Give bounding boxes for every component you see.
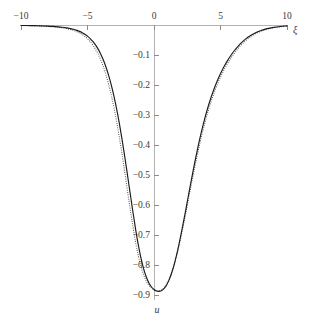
y-axis-ticks: −0.1−0.2−0.3−0.4−0.5−0.6−0.7−0.8−0.9: [133, 50, 159, 300]
x-tick-label: −10: [14, 11, 29, 21]
y-tick-label: −0.3: [133, 110, 150, 120]
y-tick-label: −0.4: [133, 140, 150, 150]
y-tick-label: −0.1: [133, 50, 150, 60]
chart-container: −10−50510 −0.1−0.2−0.3−0.4−0.5−0.6−0.7−0…: [0, 0, 309, 324]
plot-svg: −10−50510 −0.1−0.2−0.3−0.4−0.5−0.6−0.7−0…: [0, 0, 309, 324]
x-axis-label: ξ: [293, 24, 298, 36]
y-axis-label: u: [155, 304, 160, 315]
y-tick-label: −0.2: [133, 80, 150, 90]
axes-group: [21, 25, 287, 300]
y-tick-label: −0.9: [133, 290, 150, 300]
x-tick-label: 10: [282, 11, 292, 21]
x-tick-label: 5: [218, 11, 223, 21]
y-tick-label: −0.5: [133, 170, 150, 180]
x-tick-label: 0: [152, 11, 157, 21]
x-tick-label: −5: [82, 11, 92, 21]
y-tick-label: −0.6: [133, 200, 150, 210]
